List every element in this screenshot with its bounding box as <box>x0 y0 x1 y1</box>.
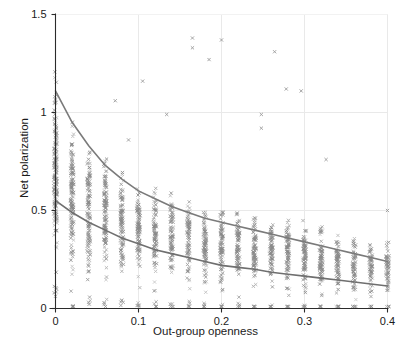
data-point-marker <box>69 259 72 262</box>
y-tick-label: 1.5 <box>0 8 47 20</box>
data-point-marker <box>337 288 340 291</box>
data-point-marker <box>71 265 74 268</box>
data-point-marker <box>191 36 194 39</box>
data-point-marker <box>105 257 108 260</box>
chart-figure: 00.511.5 00.10.20.30.4 Out-group opennes… <box>0 0 411 346</box>
data-point-marker <box>86 278 89 281</box>
data-point-marker <box>88 296 91 299</box>
data-point-marker <box>369 295 372 298</box>
data-point-marker <box>237 296 240 299</box>
data-point-marker <box>186 263 189 266</box>
data-point-marker <box>188 200 191 203</box>
y-axis-label: Net polarization <box>18 88 30 228</box>
data-point-marker <box>165 113 168 116</box>
data-point-marker <box>87 158 90 161</box>
data-point-marker <box>285 87 288 90</box>
data-point-marker <box>153 280 156 283</box>
data-point-marker <box>119 304 122 307</box>
scatter-plot-canvas <box>0 0 411 346</box>
data-point-marker <box>70 246 73 249</box>
data-point-marker <box>127 138 130 141</box>
data-point-marker <box>287 294 290 297</box>
data-point-marker <box>336 234 339 237</box>
data-point-marker <box>186 204 189 207</box>
data-point-marker <box>320 240 323 243</box>
data-point-marker <box>207 58 210 61</box>
data-point-marker <box>170 192 173 195</box>
data-point-marker <box>335 291 338 294</box>
data-point-marker <box>170 271 173 274</box>
data-point-marker <box>237 273 240 276</box>
data-point-marker <box>105 298 108 301</box>
data-point-marker <box>154 270 157 273</box>
x-axis-label: Out-group openness <box>0 325 411 337</box>
data-point-marker <box>120 270 123 273</box>
data-point-marker <box>152 191 155 194</box>
data-point-marker <box>260 127 263 130</box>
data-point-marker <box>154 187 157 190</box>
data-point-marker <box>169 194 172 197</box>
data-point-marker <box>141 80 144 83</box>
data-point-marker <box>273 50 276 53</box>
data-point-marker <box>70 273 73 276</box>
data-point-marker <box>120 183 123 186</box>
data-point-marker <box>69 290 72 293</box>
data-point-marker <box>260 113 263 116</box>
data-point-marker <box>104 278 107 281</box>
data-point-marker <box>105 275 108 278</box>
data-point-marker <box>354 298 357 301</box>
data-point-marker <box>72 238 75 241</box>
data-point-marker <box>204 291 207 294</box>
data-point-marker <box>103 245 106 248</box>
data-point-marker <box>89 299 92 302</box>
data-point-marker <box>318 282 321 285</box>
data-point-marker <box>300 89 303 92</box>
data-point-marker <box>105 234 108 237</box>
data-point-marker <box>271 285 274 288</box>
data-point-marker <box>191 46 194 49</box>
data-point-marker <box>271 280 274 283</box>
data-point-marker <box>71 255 74 258</box>
data-point-marker <box>188 287 191 290</box>
data-point-marker <box>71 268 74 271</box>
data-point-marker <box>105 266 108 269</box>
data-point-marker <box>114 99 117 102</box>
data-point-marker <box>324 158 327 161</box>
y-tick-label: 0 <box>0 302 47 314</box>
